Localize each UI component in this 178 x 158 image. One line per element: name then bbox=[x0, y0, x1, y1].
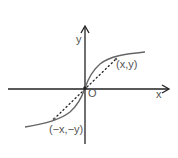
point-neg-xy-label: (−x,−y) bbox=[49, 123, 83, 135]
x-axis-label: x bbox=[156, 88, 162, 100]
point-neg-xy bbox=[53, 118, 56, 121]
y-axis-label: y bbox=[76, 33, 82, 45]
point-xy-label: (x,y) bbox=[116, 58, 137, 70]
origin-point bbox=[83, 86, 87, 90]
origin-label: O bbox=[88, 87, 97, 99]
odd-function-diagram: y x O (x,y) (−x,−y) bbox=[0, 0, 178, 158]
